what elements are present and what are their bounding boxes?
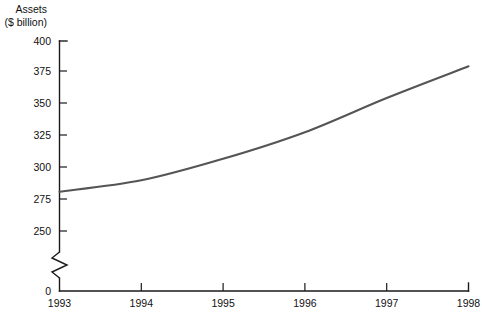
y-tick-label-zero: 0 bbox=[45, 285, 51, 297]
x-tick-label-1993: 1993 bbox=[48, 297, 72, 309]
y-axis-title-line2: ($ billion) bbox=[4, 16, 47, 28]
x-tick-label-1994: 1994 bbox=[130, 297, 154, 309]
y-tick-label-350: 350 bbox=[33, 97, 51, 109]
x-tick-label-1995: 1995 bbox=[211, 297, 235, 309]
y-axis-break-icon bbox=[52, 252, 67, 278]
y-tick-label-400: 400 bbox=[33, 35, 51, 47]
line-chart: Assets ($ billion) 400 375 350 325 300 2… bbox=[0, 0, 482, 323]
y-axis-title-line1: Assets bbox=[15, 3, 47, 15]
y-tick-label-325: 325 bbox=[33, 129, 51, 141]
x-tick-label-1997: 1997 bbox=[375, 297, 399, 309]
x-tick-label-1998: 1998 bbox=[457, 297, 481, 309]
x-tick-label-1996: 1996 bbox=[293, 297, 317, 309]
chart-container: Assets ($ billion) 400 375 350 325 300 2… bbox=[0, 0, 482, 323]
y-tick-label-250: 250 bbox=[33, 225, 51, 237]
y-tick-label-275: 275 bbox=[33, 193, 51, 205]
data-series-assets bbox=[60, 66, 469, 191]
y-tick-label-375: 375 bbox=[33, 65, 51, 77]
y-tick-label-300: 300 bbox=[33, 161, 51, 173]
